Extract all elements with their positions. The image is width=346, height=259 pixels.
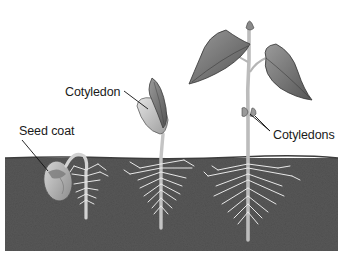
- label-cotyledon: Cotyledon: [65, 85, 120, 99]
- label-cotyledons: Cotyledons: [273, 128, 335, 142]
- leader-cotyledons-2: [255, 116, 270, 131]
- label-seed-coat: Seed coat: [19, 124, 74, 138]
- germination-diagram: Seed coat Cotyledon Cotyledons: [0, 0, 346, 259]
